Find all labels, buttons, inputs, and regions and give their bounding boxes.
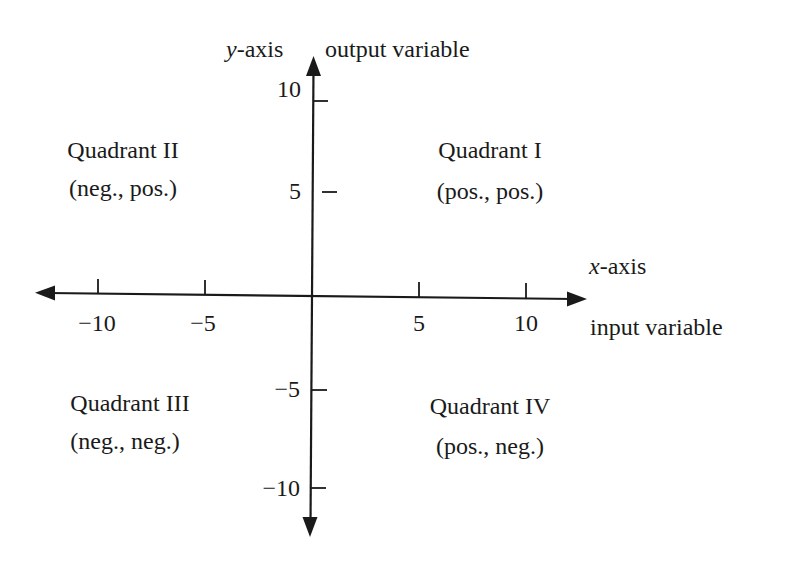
x-axis-left-arrow-icon — [35, 286, 55, 301]
x-axis-name: x-axis — [588, 253, 646, 279]
quadrant-iv-title: Quadrant IV — [430, 393, 551, 419]
y-axis-up-arrow-icon — [306, 56, 321, 76]
coordinate-plane-diagram: −10 −5 5 10 x-axis input variable 10 5 −… — [0, 0, 794, 562]
quadrant-ii-signs: (neg., pos.) — [69, 175, 177, 201]
y-tick-label-neg5: −5 — [274, 376, 300, 402]
quadrant-label-iii: Quadrant III (neg., neg.) — [70, 390, 189, 454]
y-axis-name-italic: y — [224, 36, 237, 62]
quadrant-i-title: Quadrant I — [438, 137, 541, 163]
y-axis-description: output variable — [325, 36, 470, 62]
y-axis-name: y-axis — [224, 36, 283, 62]
x-axis-name-rest: -axis — [600, 253, 647, 279]
quadrant-ii-title: Quadrant II — [67, 137, 178, 163]
quadrant-iii-title: Quadrant III — [70, 390, 189, 416]
x-axis-right-arrow-icon — [567, 292, 587, 307]
x-tick-label-neg10: −10 — [78, 310, 116, 336]
x-tick-label-5: 5 — [413, 310, 425, 336]
quadrant-i-signs: (pos., pos.) — [437, 178, 544, 204]
quadrant-label-iv: Quadrant IV (pos., neg.) — [430, 393, 551, 459]
x-axis: −10 −5 5 10 x-axis input variable — [35, 253, 723, 340]
y-tick-label-10: 10 — [277, 76, 301, 102]
y-axis-line — [311, 68, 314, 525]
x-tick-label-neg5: −5 — [190, 310, 216, 336]
quadrant-label-i: Quadrant I (pos., pos.) — [437, 137, 544, 204]
y-axis: 10 5 −5 −10 y-axis output variable — [224, 36, 470, 537]
y-tick-label-5: 5 — [289, 178, 301, 204]
quadrant-label-ii: Quadrant II (neg., pos.) — [67, 137, 178, 201]
x-axis-description: input variable — [590, 314, 723, 340]
quadrant-iii-signs: (neg., neg.) — [70, 428, 179, 454]
x-axis-name-italic: x — [588, 253, 600, 279]
y-axis-down-arrow-icon — [303, 517, 318, 537]
y-axis-name-rest: -axis — [237, 36, 284, 62]
quadrant-iv-signs: (pos., neg.) — [436, 433, 544, 459]
y-tick-label-neg10: −10 — [262, 475, 300, 501]
x-tick-label-10: 10 — [514, 310, 538, 336]
